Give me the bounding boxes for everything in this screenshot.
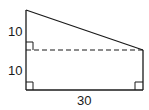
label-lower-left: 10 bbox=[8, 63, 22, 78]
label-upper-left: 10 bbox=[8, 24, 22, 39]
label-bottom: 30 bbox=[77, 93, 91, 108]
right-angle-marker-middle-left bbox=[26, 42, 33, 50]
trapezoid-diagram: 10 10 30 bbox=[0, 0, 149, 110]
slanted-top-side bbox=[26, 10, 143, 50]
right-angle-marker-bottom-right bbox=[135, 82, 143, 90]
right-angle-marker-bottom-left bbox=[26, 82, 33, 90]
